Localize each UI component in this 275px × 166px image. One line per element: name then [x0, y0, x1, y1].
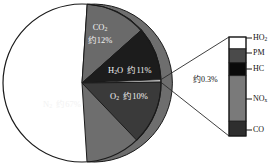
pie-label-n2: N2 约67%	[43, 99, 81, 109]
bar-label-nox-subscript: x	[265, 97, 268, 103]
bar-segment-pm[interactable]	[229, 49, 246, 63]
bar-label-nox-formula: NO	[253, 94, 265, 103]
bar-segment-hc[interactable]	[229, 63, 246, 76]
bar-segment-ho2[interactable]	[229, 37, 246, 49]
chart-svg: N2 约67% CO2 约12% H2O 约11% O2 约10% 约0.3%	[0, 0, 275, 166]
pie-label-co2-formula: CO	[93, 22, 105, 32]
bar-label-pm: PM	[253, 48, 265, 57]
bar-segment-co[interactable]	[229, 121, 246, 136]
bar-label-hc-formula: HC	[253, 64, 264, 73]
pie-label-o2: O2 约10%	[110, 91, 148, 101]
bar-label-ho2-subscript: 2	[265, 36, 268, 42]
bar-label-ho2-formula: HO	[253, 33, 265, 42]
pie-label-co2-value: 约12%	[88, 35, 113, 45]
gas-composition-figure: N2 约67% CO2 约12% H2O 约11% O2 约10% 约0.3%	[0, 0, 275, 166]
pie-label-o2-value: 约10%	[123, 91, 148, 101]
bar-segment-nox[interactable]	[229, 76, 246, 122]
pie-label-co2-subscript: 2	[104, 26, 107, 32]
bar-label-co: CO	[253, 125, 264, 134]
bar-label-co-formula: CO	[253, 125, 264, 134]
pie-label-h2o-value: 约11%	[127, 65, 151, 75]
bar-label-hc: HC	[253, 64, 264, 73]
callout-value-label: 约0.3%	[193, 74, 218, 84]
pie-label-n2-value: 约67%	[56, 99, 81, 109]
bar-label-pm-formula: PM	[253, 48, 265, 57]
